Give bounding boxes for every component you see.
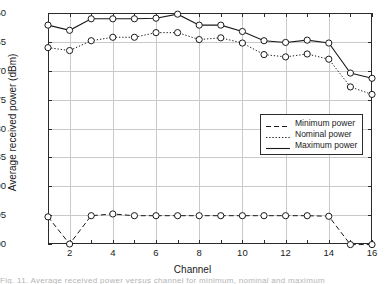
x-tick-label: 6	[153, 248, 158, 258]
data-point-marker	[369, 75, 375, 81]
legend-item: Minimum power	[265, 118, 357, 129]
data-point-marker	[218, 22, 224, 28]
data-point-marker	[88, 16, 94, 22]
y-tick-label: −90	[0, 181, 6, 191]
x-tick-top	[372, 13, 373, 17]
data-point-marker	[67, 27, 73, 33]
data-point-marker	[304, 213, 310, 219]
data-point-marker	[239, 28, 245, 34]
data-point-marker	[369, 91, 375, 97]
series-line-maximum	[48, 14, 372, 78]
data-point-marker	[218, 35, 224, 41]
data-point-marker	[67, 47, 73, 53]
chart-legend: Minimum powerNominal powerMaximum power	[260, 114, 363, 155]
legend-item: Maximum power	[265, 140, 357, 151]
x-tick-label: 14	[324, 248, 335, 258]
series-line-minimum	[48, 214, 372, 245]
y-tick-label: −60	[0, 8, 6, 18]
data-point-marker	[196, 213, 202, 219]
data-point-marker	[326, 56, 332, 62]
legend-label: Nominal power	[295, 129, 352, 140]
data-point-marker	[175, 213, 181, 219]
data-point-marker	[196, 22, 202, 28]
data-point-marker	[326, 40, 332, 46]
data-point-marker	[369, 241, 375, 247]
x-tick-label: 8	[197, 248, 202, 258]
y-tick-label: −70	[0, 66, 6, 76]
x-tick-label: 12	[280, 248, 291, 258]
data-point-marker	[131, 16, 137, 22]
data-point-marker	[88, 213, 94, 219]
data-point-marker	[239, 40, 245, 46]
data-point-marker	[153, 213, 159, 219]
data-point-marker	[45, 214, 51, 220]
data-point-marker	[347, 241, 353, 247]
data-point-marker	[45, 22, 51, 28]
x-tick-label: 4	[110, 248, 115, 258]
figure-caption-partial: Fig. 11. Average received power versus c…	[0, 276, 385, 284]
data-point-marker	[304, 51, 310, 57]
data-point-marker	[110, 34, 116, 40]
y-tick-label: −80	[0, 124, 6, 134]
data-point-marker	[261, 213, 267, 219]
y-tick-label: −95	[0, 210, 6, 220]
x-axis-title: Channel	[0, 264, 385, 275]
data-point-marker	[261, 51, 267, 57]
y-axis-title: Average received power (dBm)	[7, 13, 18, 233]
chart-figure: −60−65−70−75−80−85−90−95−100 24681012141…	[0, 0, 385, 284]
data-point-marker	[218, 213, 224, 219]
data-point-marker	[110, 16, 116, 22]
data-point-marker	[153, 15, 159, 21]
data-point-marker	[131, 213, 137, 219]
data-point-marker	[283, 39, 289, 45]
data-point-marker	[283, 54, 289, 60]
data-point-marker	[283, 213, 289, 219]
legend-item: Nominal power	[265, 129, 357, 140]
x-tick-label: 2	[67, 248, 72, 258]
data-point-marker	[347, 84, 353, 90]
legend-label: Minimum power	[295, 118, 355, 129]
data-point-marker	[175, 11, 181, 17]
x-tick-label: 16	[367, 248, 378, 258]
y-tick-label: −65	[0, 37, 6, 47]
data-point-marker	[239, 213, 245, 219]
y-tick-label: −75	[0, 95, 6, 105]
legend-line-sample-dashed	[265, 118, 291, 129]
legend-label: Maximum power	[295, 140, 357, 151]
data-point-marker	[175, 30, 181, 36]
x-tick-label: 10	[237, 248, 248, 258]
y-tick-label: −100	[0, 239, 6, 249]
legend-line-sample-dotted	[265, 129, 291, 140]
data-point-marker	[67, 241, 73, 247]
data-point-marker	[131, 34, 137, 40]
data-point-marker	[196, 36, 202, 42]
y-tick-left	[48, 244, 52, 245]
data-point-marker	[110, 211, 116, 217]
data-point-marker	[347, 70, 353, 76]
data-point-marker	[153, 30, 159, 36]
data-point-marker	[88, 38, 94, 44]
y-tick-label: −85	[0, 152, 6, 162]
data-point-marker	[326, 213, 332, 219]
legend-line-sample-solid	[265, 140, 291, 151]
data-point-marker	[304, 37, 310, 43]
data-point-marker	[45, 45, 51, 51]
data-point-marker	[261, 38, 267, 44]
